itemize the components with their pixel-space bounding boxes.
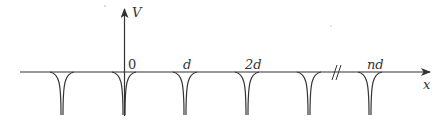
potential-well [358, 72, 382, 115]
tick-label-nd: nd [367, 58, 384, 71]
speck-dot [104, 5, 105, 6]
tick-label-origin: 0 [128, 58, 136, 71]
potential-diagram: V 0 d 2d nd x [0, 0, 447, 123]
potential-well [173, 72, 197, 115]
tick-label-2d: 2d [245, 58, 262, 71]
tick-label-d: d [183, 58, 191, 71]
x-axis-label: x [423, 78, 430, 91]
potential-well [297, 72, 321, 115]
potential-well [235, 72, 259, 115]
v-axis-label: V [132, 6, 141, 19]
speck-dot [330, 25, 331, 26]
potential-well [50, 72, 74, 115]
